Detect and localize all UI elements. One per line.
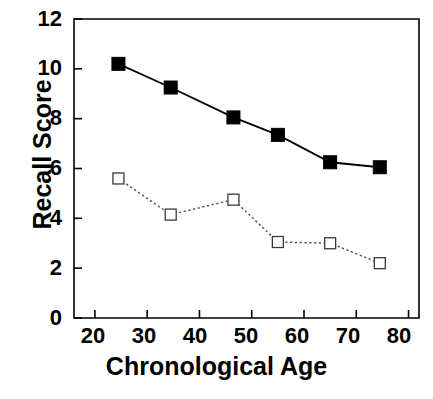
data-point-marker[interactable] — [373, 161, 386, 174]
data-point-marker[interactable] — [112, 57, 125, 70]
series-line-1 — [118, 178, 379, 263]
chart-figure: Recall Score Chronological Age 0 2 4 6 8… — [0, 0, 433, 399]
y-tick-marks — [74, 19, 82, 318]
data-point-marker[interactable] — [271, 128, 284, 141]
data-point-marker[interactable] — [374, 258, 385, 269]
series-filled-squares-solid — [112, 57, 386, 173]
data-point-marker[interactable] — [113, 173, 124, 184]
data-point-marker[interactable] — [324, 156, 337, 169]
series-line-0 — [118, 64, 379, 167]
data-point-marker[interactable] — [164, 81, 177, 94]
axis-frame — [74, 19, 419, 318]
x-tick-marks — [95, 310, 409, 318]
data-point-marker[interactable] — [228, 194, 239, 205]
data-series-group — [112, 57, 386, 268]
data-point-marker[interactable] — [165, 209, 176, 220]
series-open-squares-dotted — [113, 173, 385, 269]
data-point-marker[interactable] — [325, 238, 336, 249]
plot-area — [0, 0, 433, 399]
data-point-marker[interactable] — [272, 237, 283, 248]
data-point-marker[interactable] — [227, 111, 240, 124]
